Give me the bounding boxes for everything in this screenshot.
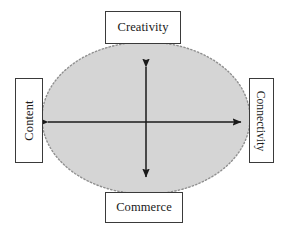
node-creativity[interactable]: Creativity [105, 11, 181, 44]
node-content[interactable]: Content [15, 78, 43, 163]
node-commerce-label: Commerce [116, 200, 172, 215]
node-creativity-label: Creativity [118, 20, 169, 35]
diagram-canvas: Creativity Content Connectivity Commerce [0, 0, 291, 236]
node-connectivity[interactable]: Connectivity [249, 78, 274, 163]
node-commerce[interactable]: Commerce [105, 192, 183, 223]
node-connectivity-label: Connectivity [256, 90, 268, 151]
node-content-label: Content [22, 100, 37, 140]
